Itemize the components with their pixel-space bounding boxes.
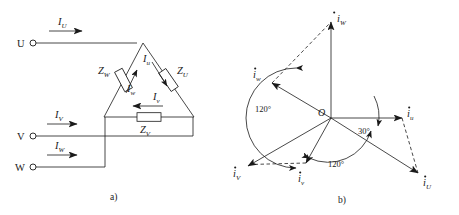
figure-container: U IU V IV W IW: [0, 0, 459, 215]
label-angle-120-lower: 120°: [328, 159, 344, 169]
figure-svg: U IU V IV W IW: [0, 0, 459, 215]
label-phasor-phase-v: iv: [298, 173, 305, 187]
label-phasor-line-v: iV: [233, 168, 241, 182]
terminal-v-node: [30, 133, 36, 139]
dot-phasor-phase-u: [408, 106, 410, 108]
label-impedance-zw: ZW: [98, 65, 111, 79]
phasor-phase-current-w: [272, 83, 331, 118]
label-phasor-phase-u: iu: [407, 108, 414, 122]
label-phasor-phase-w: iw: [253, 69, 261, 83]
label-line-current-v: IV: [54, 109, 64, 123]
impedance-zv-body: [137, 113, 161, 122]
terminal-v-label: V: [17, 131, 25, 142]
label-angle-120-upper: 120°: [255, 104, 271, 114]
terminal-u-label: U: [17, 38, 25, 49]
caption-panel-b: b): [338, 195, 346, 206]
label-line-current-w: IW: [54, 140, 66, 154]
label-phasor-line-w: iW: [337, 13, 347, 27]
dot-phasor-line-w: [333, 11, 335, 13]
label-phase-current-v: Iv: [152, 91, 161, 105]
panel-b: O iW iV iU iu iw i: [233, 11, 432, 206]
label-impedance-zu: ZU: [177, 65, 189, 79]
caption-panel-a: a): [110, 192, 117, 203]
impedance-zu-body: [159, 69, 179, 92]
label-angle-30: 30°: [358, 126, 370, 136]
label-phase-current-u: Iu: [142, 53, 151, 67]
phasor-line-current-v: [248, 118, 331, 166]
label-phasor-line-u: iU: [423, 177, 432, 191]
phasor-phase-current-v: [306, 118, 331, 163]
label-line-current-u: IU: [57, 16, 68, 30]
terminal-w-node: [30, 164, 36, 170]
construction-dashed-w: [272, 22, 331, 83]
panel-a: U IU V IV W IW: [15, 16, 194, 203]
terminal-u-node: [30, 40, 36, 46]
dot-phasor-line-v: [234, 166, 236, 168]
terminal-w-label: W: [15, 162, 25, 173]
dot-phasor-line-u: [424, 175, 426, 177]
dot-phasor-phase-v: [299, 171, 301, 173]
arc-angle-30: [374, 96, 379, 126]
construction-dashed-v: [250, 163, 306, 165]
dot-phasor-phase-w: [254, 67, 256, 69]
label-impedance-zv: ZV: [140, 124, 151, 138]
